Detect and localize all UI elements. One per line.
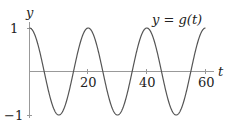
chart: y t 1 −1 20 40 60 y = g(t) xyxy=(0,0,236,127)
y-tick-label-1: 1 xyxy=(10,21,18,36)
y-tick-label-neg1: −1 xyxy=(4,108,23,123)
t-tick-label-20: 20 xyxy=(80,75,97,90)
curve-label: y = g(t) xyxy=(151,12,202,27)
t-tick-label-40: 40 xyxy=(139,75,156,90)
t-tick-label-60: 60 xyxy=(198,75,215,90)
y-axis-label: y xyxy=(25,5,34,20)
t-axis-label: t xyxy=(218,64,224,79)
